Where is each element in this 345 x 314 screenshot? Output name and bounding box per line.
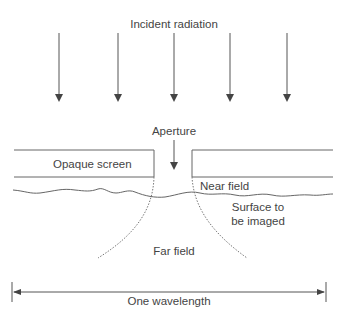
field-boundary-left xyxy=(98,177,154,258)
near-field-label: Near field xyxy=(200,180,249,192)
surface-label-line1: Surface to xyxy=(232,201,284,213)
opaque-screen-right xyxy=(192,150,333,177)
far-field-label: Far field xyxy=(153,245,195,257)
one-wavelength-label: One wavelength xyxy=(127,295,210,307)
near-field-diagram: Incident radiation Aperture Opaque scree… xyxy=(0,0,345,314)
surface-line xyxy=(13,189,333,198)
opaque-screen-label: Opaque screen xyxy=(53,158,132,170)
aperture-label: Aperture xyxy=(152,125,196,137)
incident-radiation-label: Incident radiation xyxy=(130,18,218,30)
incident-arrows xyxy=(59,33,287,98)
surface-label-line2: be imaged xyxy=(231,215,285,227)
